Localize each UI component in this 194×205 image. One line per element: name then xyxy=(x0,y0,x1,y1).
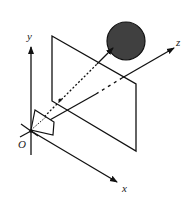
z-axis-hidden xyxy=(96,78,122,94)
z-axis-label: z xyxy=(175,36,181,48)
projection-ray xyxy=(97,48,113,64)
y-axis-label: y xyxy=(26,30,32,42)
sphere-object xyxy=(107,22,145,60)
x-axis xyxy=(31,131,117,182)
camera-frustum xyxy=(31,110,54,135)
z-axis-back xyxy=(20,131,31,137)
origin-label: O xyxy=(18,138,26,150)
origin-point xyxy=(29,129,33,133)
projection-diagram: y x z O xyxy=(0,0,194,205)
x-axis-label: x xyxy=(121,182,127,194)
z-axis-segment xyxy=(48,94,96,121)
projection-point xyxy=(58,98,61,101)
